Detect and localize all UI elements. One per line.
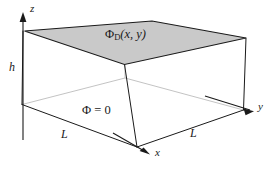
dimension-label-height: h xyxy=(9,61,15,73)
axis-label-y: y xyxy=(258,101,263,112)
phi-arguments: (x, y) xyxy=(120,27,146,41)
box-geometry-svg xyxy=(0,0,277,169)
hidden-bottom-edge-right xyxy=(125,78,244,110)
dirichlet-box-figure: z y x h L L ΦD(x, y) Φ = 0 xyxy=(0,0,277,169)
phi-subscript-d: D xyxy=(114,32,120,42)
hidden-bottom-edge-left xyxy=(22,78,125,105)
z-axis-arrowhead-icon xyxy=(20,12,27,22)
hidden-edges-group xyxy=(22,65,244,111)
phi-symbol: Φ xyxy=(105,27,114,41)
axis-label-x: x xyxy=(155,147,160,158)
dimension-label-width: L xyxy=(190,127,197,139)
axis-label-z: z xyxy=(30,3,34,14)
interior-boundary-condition-label: Φ = 0 xyxy=(82,104,111,117)
y-axis-group xyxy=(205,96,254,115)
edge-vertical-right xyxy=(244,38,247,110)
top-face-boundary-condition-label: ΦD(x, y) xyxy=(105,28,146,41)
edge-vertical-front xyxy=(125,65,138,148)
dimension-label-depth: L xyxy=(61,128,68,140)
x-axis-line xyxy=(113,133,146,152)
edge-bottom-left-front xyxy=(22,105,137,148)
x-axis-group xyxy=(113,133,150,154)
